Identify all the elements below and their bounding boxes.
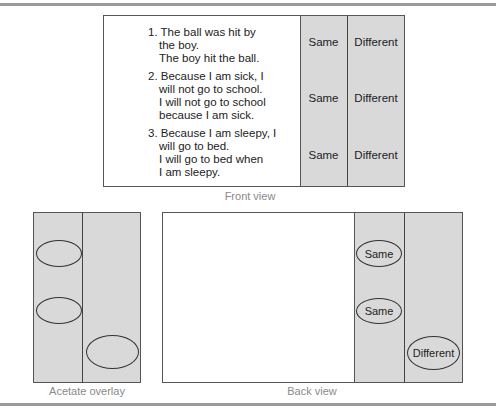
choice-same-2[interactable]: Same	[300, 92, 347, 104]
choice-same-3[interactable]: Same	[300, 149, 347, 161]
acetate-ellipse-3	[86, 335, 139, 369]
acetate-overlay-caption: Acetate overlay	[27, 385, 147, 397]
back-answer-2: Same	[356, 298, 402, 324]
item-line: The boy hit the ball.	[148, 52, 259, 65]
acetate-ellipse-2	[36, 297, 82, 324]
back-answer-3: Different	[407, 336, 460, 370]
top-rule	[0, 3, 496, 6]
choice-different-1[interactable]: Different	[348, 36, 404, 48]
bottom-rule	[0, 403, 496, 406]
back-answer-1: Same	[356, 240, 402, 267]
front-item-1: 1. The ball was hit by the boy. The boy …	[148, 26, 259, 65]
acetate-divider	[82, 212, 83, 383]
acetate-ellipse-1	[36, 240, 82, 267]
item-line: 3. Because I am sleepy, I	[148, 127, 276, 140]
front-view-caption: Front view	[200, 190, 300, 202]
back-answer-divider	[404, 213, 405, 382]
item-line: the boy.	[148, 39, 259, 52]
front-item-3: 3. Because I am sleepy, I will go to bed…	[148, 127, 276, 179]
item-line: because I am sick.	[148, 109, 266, 122]
front-item-2: 2. Because I am sick, I will not go to s…	[148, 70, 266, 122]
choice-different-3[interactable]: Different	[348, 149, 404, 161]
item-line: I will go to bed when	[148, 153, 276, 166]
item-line: 1. The ball was hit by	[148, 26, 259, 39]
choice-different-2[interactable]: Different	[348, 92, 404, 104]
item-line: I am sleepy.	[148, 166, 276, 179]
item-line: will not go to school.	[148, 83, 266, 96]
choice-same-1[interactable]: Same	[300, 36, 347, 48]
item-line: 2. Because I am sick, I	[148, 70, 266, 83]
item-line: I will not go to school	[148, 96, 266, 109]
item-line: will go to bed.	[148, 140, 276, 153]
back-view-caption: Back view	[262, 385, 362, 397]
